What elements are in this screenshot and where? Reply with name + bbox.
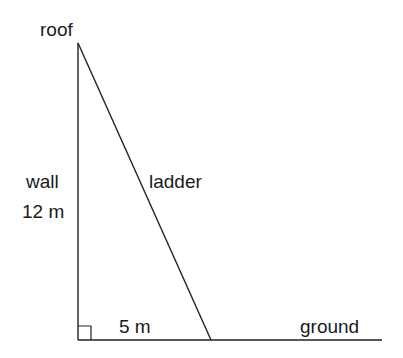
right-angle-marker (78, 326, 91, 340)
wall-length-label: 12 m (22, 202, 64, 221)
ladder-label: ladder (149, 172, 202, 191)
ground-label: ground (300, 317, 359, 336)
ladder-diagram: roof wall 12 m ladder 5 m ground (0, 0, 403, 358)
base-length-label: 5 m (119, 317, 151, 336)
roof-label: roof (40, 20, 73, 39)
wall-label: wall (26, 172, 59, 191)
